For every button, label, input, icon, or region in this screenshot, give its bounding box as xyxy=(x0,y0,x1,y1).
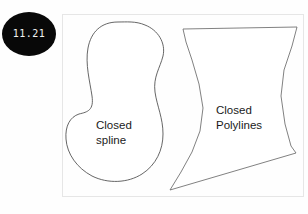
figure-root: Closed spline Closed Polylines 11.21 xyxy=(0,0,308,214)
slide-number-text: 11.21 xyxy=(13,29,46,39)
closed-polylines-label: Closed Polylines xyxy=(216,103,262,133)
closed-spline-label: Closed spline xyxy=(96,118,132,148)
slide-number-badge: 11.21 xyxy=(2,12,56,56)
closed-spline-shape xyxy=(66,22,164,182)
